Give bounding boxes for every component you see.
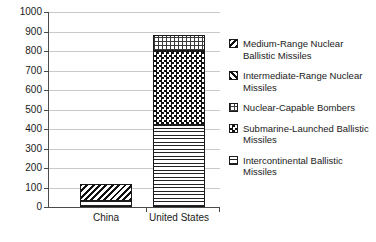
legend-item: Submarine-Launched Ballistic Missiles — [229, 123, 375, 146]
x-tick-mark — [219, 208, 220, 212]
y-tick-mark — [44, 71, 48, 72]
bar-segment-medium-range — [80, 184, 132, 202]
x-axis-line — [48, 207, 220, 208]
y-tick-mark — [44, 207, 48, 208]
x-axis-label-china: China — [93, 212, 119, 223]
stacked-bar-chart: 01002003004005006007008009001000 ChinaUn… — [0, 0, 376, 242]
legend-swatch-intermediate-range-icon — [229, 71, 238, 80]
bar-segment-icbm — [80, 201, 132, 207]
y-tick-label: 0 — [36, 202, 42, 212]
legend-swatch-submarine-icon — [229, 124, 238, 133]
legend-swatch-medium-range-icon — [229, 39, 238, 48]
bar-segment-bombers — [153, 35, 205, 51]
y-tick-label: 800 — [25, 46, 42, 56]
legend-label: Nuclear-Capable Bombers — [243, 102, 355, 114]
legend-item: Intercontinental Ballistic Missiles — [229, 155, 375, 178]
bar-segment-submarine — [153, 51, 205, 125]
y-tick-mark — [44, 129, 48, 130]
legend-item: Medium-Range Nuclear Ballistic Missiles — [229, 38, 375, 61]
legend-swatch-icbm-icon — [229, 156, 238, 165]
y-tick-label: 1000 — [20, 7, 42, 17]
plot-area: 01002003004005006007008009001000 — [48, 12, 220, 208]
y-tick-label: 700 — [25, 66, 42, 76]
chart-legend: Medium-Range Nuclear Ballistic MissilesI… — [229, 38, 375, 187]
legend-swatch-bombers-icon — [229, 103, 238, 112]
y-tick-label: 300 — [25, 144, 42, 154]
y-tick-mark — [44, 32, 48, 33]
x-tick-mark — [146, 208, 147, 212]
x-axis-label-united-states: United States — [149, 212, 209, 223]
y-tick-label: 400 — [25, 124, 42, 134]
bar-segment-icbm — [153, 125, 205, 207]
y-tick-mark — [44, 51, 48, 52]
y-tick-mark — [44, 168, 48, 169]
y-tick-label: 500 — [25, 105, 42, 115]
bar-united-states — [153, 35, 205, 207]
legend-item: Intermediate-Range Nuclear Missiles — [229, 70, 375, 93]
y-tick-mark — [44, 110, 48, 111]
y-tick-label: 200 — [25, 163, 42, 173]
y-tick-label: 600 — [25, 85, 42, 95]
gridline — [49, 12, 220, 13]
legend-label: Submarine-Launched Ballistic Missiles — [243, 123, 375, 146]
gridline — [49, 32, 220, 33]
y-tick-label: 900 — [25, 27, 42, 37]
y-tick-mark — [44, 90, 48, 91]
legend-label: Intermediate-Range Nuclear Missiles — [243, 70, 375, 93]
y-tick-mark — [44, 149, 48, 150]
legend-item: Nuclear-Capable Bombers — [229, 102, 375, 114]
legend-label: Intercontinental Ballistic Missiles — [243, 155, 375, 178]
y-tick-label: 100 — [25, 183, 42, 193]
y-tick-mark — [44, 188, 48, 189]
bar-china — [80, 184, 132, 207]
legend-label: Medium-Range Nuclear Ballistic Missiles — [243, 38, 375, 61]
y-tick-mark — [44, 12, 48, 13]
